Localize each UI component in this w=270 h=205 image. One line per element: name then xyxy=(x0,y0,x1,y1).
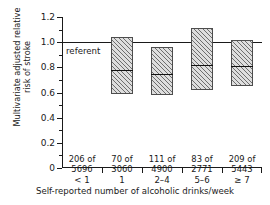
sample-size-label: 70 of3060 xyxy=(102,154,142,174)
cases-count: 206 of xyxy=(62,154,102,164)
cases-count: 83 of xyxy=(182,154,222,164)
y-tick-label-1.0: 1.0 xyxy=(41,37,55,47)
total-count: 3060 xyxy=(102,164,142,174)
x-category-label: ≥ 7 xyxy=(222,175,262,185)
y-axis-title-line-2: risk of stroke xyxy=(23,41,33,93)
relative-risk-chart: Multivariate adjusted relative risk of s… xyxy=(0,0,270,205)
y-tick-label-0.4: 0.4 xyxy=(41,113,55,123)
x-category-label: 2–4 xyxy=(142,175,182,185)
y-tick-label-0: 0 xyxy=(49,163,55,173)
y-tick-minor xyxy=(59,105,62,106)
sample-size-label: 206 of5696 xyxy=(62,154,102,174)
referent-label: referent xyxy=(66,46,100,56)
cases-count: 209 of xyxy=(222,154,262,164)
ci-box xyxy=(231,40,253,87)
y-tick-1.2 xyxy=(57,17,62,18)
sample-size-label: 111 of4900 xyxy=(142,154,182,174)
x-axis-title: Self-reported number of alcoholic drinks… xyxy=(0,186,270,196)
ci-box xyxy=(151,47,173,95)
y-tick-0.4 xyxy=(57,118,62,119)
total-count: 4900 xyxy=(142,164,182,174)
y-tick-label-0.2: 0.2 xyxy=(41,138,55,148)
y-tick-label-0.6: 0.6 xyxy=(41,88,55,98)
total-count: 5696 xyxy=(62,164,102,174)
sample-size-label: 83 of2771 xyxy=(182,154,222,174)
total-count: 5443 xyxy=(222,164,262,174)
x-category-label: 5–6 xyxy=(182,175,222,185)
ci-box xyxy=(111,37,133,94)
y-tick-0.8 xyxy=(57,67,62,68)
point-estimate-line xyxy=(111,70,133,71)
x-category-label: < 1 xyxy=(62,175,102,185)
x-category-label: 1 xyxy=(102,175,142,185)
y-tick-minor xyxy=(59,30,62,31)
y-tick-minor xyxy=(59,55,62,56)
sample-size-label: 209 of5443 xyxy=(222,154,262,174)
total-count: 2771 xyxy=(182,164,222,174)
cases-count: 111 of xyxy=(142,154,182,164)
plot-area: 00.20.40.60.81.01.2 referent 206 of56967… xyxy=(62,17,262,168)
point-estimate-line xyxy=(191,65,213,66)
y-tick-0.2 xyxy=(57,143,62,144)
y-tick-minor xyxy=(59,130,62,131)
cases-count: 70 of xyxy=(102,154,142,164)
y-axis-title: Multivariate adjusted relative risk of s… xyxy=(8,0,38,142)
ci-box xyxy=(191,28,213,90)
y-tick-label-0.8: 0.8 xyxy=(41,62,55,72)
point-estimate-line xyxy=(151,74,173,75)
y-tick-label-1.2: 1.2 xyxy=(41,12,55,22)
y-axis-title-line-1: Multivariate adjusted relative xyxy=(13,8,23,127)
y-tick-0.6 xyxy=(57,93,62,94)
point-estimate-line xyxy=(231,66,253,67)
y-tick-minor xyxy=(59,80,62,81)
